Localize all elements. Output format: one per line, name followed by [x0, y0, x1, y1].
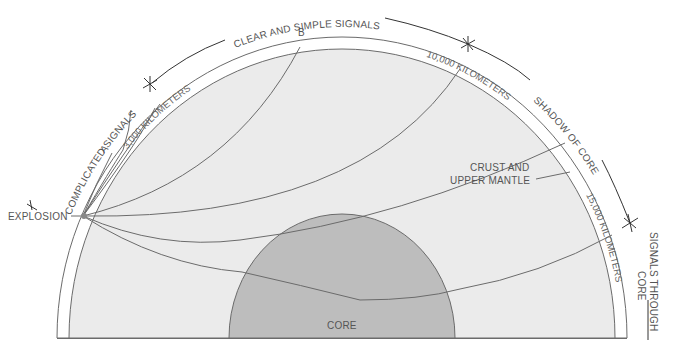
crust-label-line1: CRUST AND [470, 162, 529, 173]
point-b-label: B [298, 27, 305, 38]
signals-through-core-label: CORE [636, 271, 647, 301]
explosion-label: EXPLOSION [8, 211, 68, 222]
shadow-arc-right [602, 160, 630, 223]
explosion-point [81, 213, 87, 219]
signals-through-label: SIGNALS THROUGH [648, 232, 659, 332]
earth-cross-section-diagram: EXPLOSION COMPLICATED SIGNALS CLEAR AND … [0, 0, 676, 352]
crust-label-line2: UPPER MANTLE [450, 175, 530, 186]
core-label: CORE [327, 320, 357, 331]
clear-signals-arc-right [385, 18, 468, 44]
